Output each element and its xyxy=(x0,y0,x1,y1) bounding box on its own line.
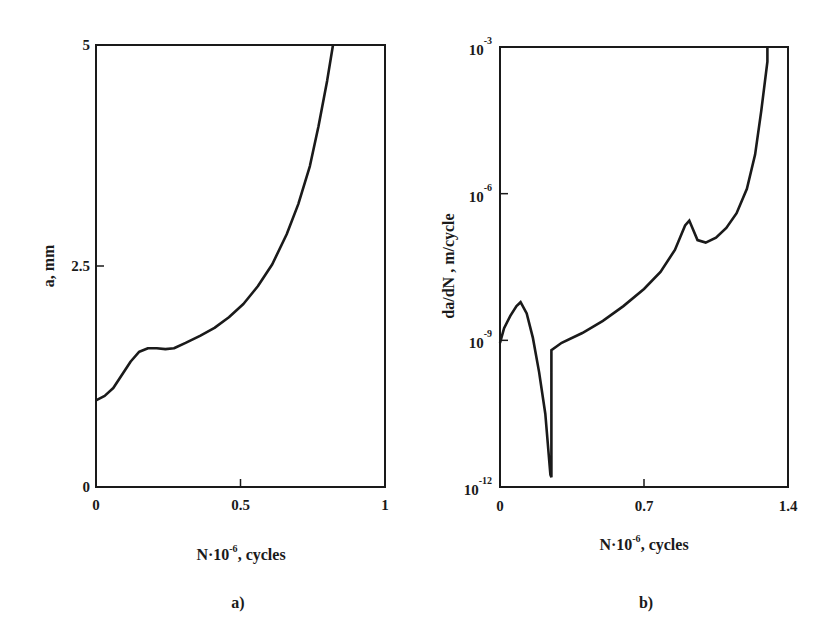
panel-b-crack-growth-rate-chart: 00.71.410-1210-910-610-3 da/dN , m/cycle… xyxy=(440,35,798,612)
figure: 00.5102.55 a, mm N·10-6, cycles a) 00.71… xyxy=(0,0,840,639)
x-tick-label: 1.4 xyxy=(779,498,798,514)
y-tick-label: 10-12 xyxy=(464,475,492,498)
panel-label-a: a) xyxy=(231,594,244,612)
y-tick-label: 10-9 xyxy=(469,328,492,351)
x-tick-label: 0.5 xyxy=(231,497,250,513)
x-tick-label: 0 xyxy=(496,498,504,514)
data-line-crack-growth-rate xyxy=(500,47,767,477)
y-tick-label: 2.5 xyxy=(71,258,90,274)
panel-label-b: b) xyxy=(639,594,653,612)
plot-frame-a xyxy=(96,45,385,487)
tick-labels-a: 00.5102.55 xyxy=(71,37,389,513)
y-tick-label: 0 xyxy=(83,479,91,495)
data-line-crack-length xyxy=(96,45,333,400)
x-axis-label-b: N·10-6, cycles xyxy=(599,533,688,554)
tick-labels-b: 00.71.410-1210-910-610-3 xyxy=(464,35,798,514)
y-tick-label: 5 xyxy=(83,37,91,53)
x-tick-label: 0.7 xyxy=(635,498,654,514)
x-tick-label: 1 xyxy=(381,497,389,513)
y-tick-label: 10-6 xyxy=(469,182,492,205)
axis-ticks-b xyxy=(500,47,788,487)
plot-frame-b xyxy=(500,47,788,487)
axis-ticks-a xyxy=(96,45,385,487)
y-axis-label-a: a, mm xyxy=(40,244,57,287)
x-tick-label: 0 xyxy=(92,497,100,513)
y-axis-label-b: da/dN , m/cycle xyxy=(440,213,458,318)
y-tick-label: 10-3 xyxy=(469,35,492,58)
panel-a-crack-length-chart: 00.5102.55 a, mm N·10-6, cycles a) xyxy=(40,37,389,612)
x-axis-label-a: N·10-6, cycles xyxy=(196,543,285,564)
